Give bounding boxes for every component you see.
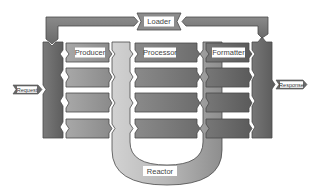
pipeline-diagram: Loader Producer Reactor Processor Format… <box>0 0 320 193</box>
request-arrow: Request <box>13 85 42 94</box>
processor-label: Processor <box>143 48 177 57</box>
reactor-label: Reactor <box>147 167 174 176</box>
input-column <box>43 42 63 138</box>
request-label: Request <box>17 87 38 93</box>
reactor-node <box>112 42 222 185</box>
loader-label: Loader <box>147 17 171 26</box>
response-label: Response <box>279 82 304 88</box>
formatter-label: Formatter <box>212 48 245 57</box>
processor-stage: Processor <box>135 43 200 138</box>
producer-label: Producer <box>75 48 106 57</box>
output-column <box>252 37 275 138</box>
loader-node: Loader <box>137 13 181 30</box>
response-arrow: Response <box>276 80 307 89</box>
producer-stage: Producer <box>66 43 112 138</box>
